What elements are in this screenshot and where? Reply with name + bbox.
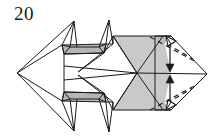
fold-arrow-top [166,36,176,72]
right-flap-upper-edge [171,36,207,74]
valley-fold-upper-inner [167,44,193,59]
lower-left-spike [62,99,74,131]
left-point-inner-lower [17,73,62,101]
center-sliver-lower [64,73,137,80]
left-point-inner-upper [17,45,62,73]
fold-arrow-bottom [166,75,176,110]
upper-left-spike [62,21,74,47]
lower-right-spike [99,99,109,132]
upper-right-spike [99,20,109,47]
right-flap-lower-edge [171,74,207,110]
left-point-lower-edge [17,73,74,131]
origami-figure: 20 [0,0,221,140]
center-sliver-upper [64,66,137,73]
origami-diagram [0,0,221,140]
